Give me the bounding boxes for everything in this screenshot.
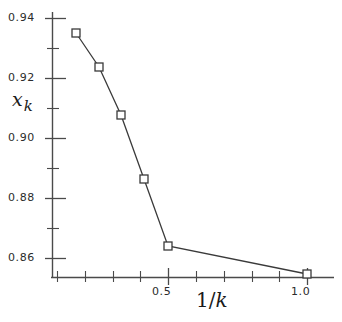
data-point	[164, 242, 172, 250]
x-tick-label: 1.0	[291, 285, 310, 298]
plot-area	[0, 0, 342, 322]
y-tick-label: 0.86	[8, 251, 35, 264]
data-point	[303, 270, 311, 278]
y-tick-label: 0.94	[8, 11, 35, 24]
x-tick-label: 0.5	[152, 285, 171, 298]
data-point	[72, 29, 80, 37]
x-axis-title-numerator: 1/	[196, 288, 215, 312]
y-tick-label: 0.88	[8, 191, 35, 204]
data-point	[117, 111, 125, 119]
y-axis-title-subscript: k	[24, 97, 33, 115]
x-axis-title-variable: k	[215, 288, 227, 312]
y-axis-major-ticks	[45, 19, 66, 259]
data-point	[95, 63, 103, 71]
chart-figure: 0.94 0.92 0.90 0.88 0.86 0.5 1.0 xk 1/k	[0, 0, 342, 322]
x-axis-title: 1/k	[196, 288, 228, 312]
y-axis-title-base: x	[12, 88, 23, 110]
y-tick-label: 0.92	[8, 71, 35, 84]
data-point	[140, 175, 148, 183]
y-tick-label: 0.90	[8, 131, 35, 144]
data-markers	[72, 29, 311, 278]
data-series-line	[76, 33, 307, 274]
y-axis-title: xk	[12, 88, 32, 110]
